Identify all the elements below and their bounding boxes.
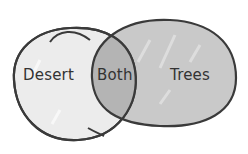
desert-label: Desert xyxy=(23,66,74,84)
both-label: Both xyxy=(97,66,133,84)
trees-label: Trees xyxy=(170,66,210,84)
